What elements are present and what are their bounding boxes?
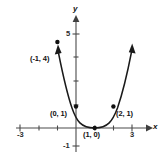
y-tick-label-5: 5 [66,30,70,38]
x-tick-label-3: 3 [130,131,134,139]
curve-right-arrow-icon [129,44,136,54]
parabola-graph-figure: x y -3 3 5 -1 (-1, 4) (0, 1) (1, 0) (2, … [0,0,165,160]
x-axis-arrow-icon [146,125,153,132]
curve-left-arrow-icon [55,45,62,55]
point-label-neg1-4: (-1, 4) [30,55,49,63]
x-axis-label: x [153,123,157,131]
point-label-0-1: (0, 1) [50,110,67,118]
point-label-2-1: (2, 1) [116,110,133,118]
y-tick-label-neg1: -1 [63,142,69,150]
point-label-1-0: (1, 0) [83,131,100,139]
point-marker-2-1 [111,104,115,108]
point-marker-neg1-4 [55,40,59,44]
y-axis-arrow-icon [73,15,80,22]
point-marker-0-1 [74,104,78,108]
y-axis-label: y [73,5,77,13]
x-tick-label-neg3: -3 [17,131,23,139]
